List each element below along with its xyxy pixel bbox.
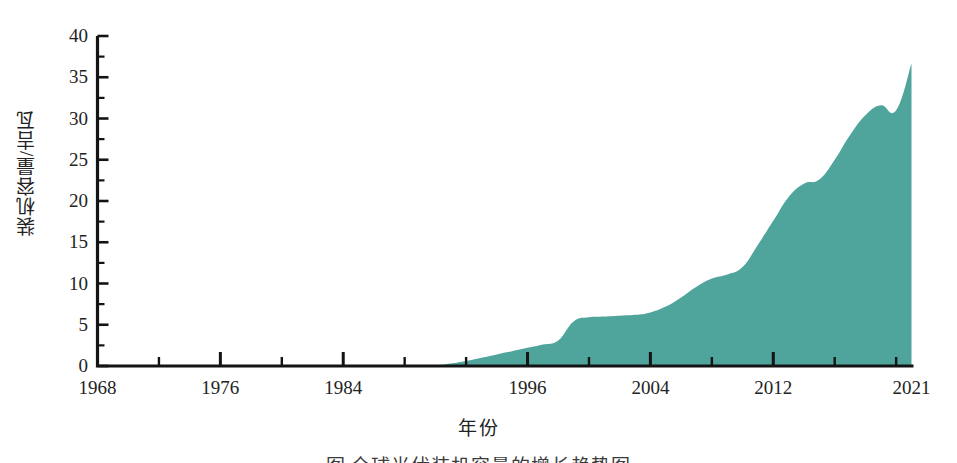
- y-tick-label: 25: [40, 150, 88, 169]
- y-tick-label: 5: [40, 315, 88, 334]
- figure-caption: 图 全球光伏装机容量的增长趋势图: [0, 451, 957, 463]
- x-tick-label: 1976: [175, 378, 265, 397]
- series-area-photovoltaic-capacity: [98, 63, 912, 366]
- x-tick-label: 1996: [483, 378, 573, 397]
- y-axis-title: 装机容量/吉瓦: [13, 110, 43, 236]
- y-tick-label: 20: [40, 191, 88, 210]
- y-tick-label: 10: [40, 274, 88, 293]
- x-tick-label: 2004: [605, 378, 695, 397]
- y-tick-label: 40: [40, 26, 88, 45]
- x-axis-title: 年份: [0, 413, 957, 440]
- y-tick-label: 0: [40, 356, 88, 375]
- figure-container: 0510152025303540 19681976198419962004201…: [0, 0, 957, 463]
- chart-plot-area: 0510152025303540 19681976198419962004201…: [0, 0, 957, 400]
- x-tick-label: 1968: [53, 378, 143, 397]
- y-tick-label: 30: [40, 109, 88, 128]
- x-tick-label: 2012: [728, 378, 818, 397]
- area-chart-svg: [0, 0, 957, 400]
- y-tick-label: 15: [40, 232, 88, 251]
- y-tick-label: 35: [40, 67, 88, 86]
- x-tick-label: 2021: [867, 378, 957, 397]
- x-tick-label: 1984: [298, 378, 388, 397]
